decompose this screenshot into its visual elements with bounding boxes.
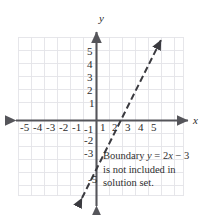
y-tick--5: -5 xyxy=(88,174,97,185)
x-tick-2: 2 xyxy=(112,122,118,133)
annotation-eq-mid: = 2 xyxy=(152,150,168,161)
annotation-line-2: is not included in xyxy=(103,163,203,177)
x-axis-label: x xyxy=(193,115,198,126)
boundary-annotation: Boundary y = 2x − 3 is not included in s… xyxy=(103,149,203,190)
y-tick--2: -2 xyxy=(84,135,93,146)
x-tick-3: 3 xyxy=(125,122,131,133)
x-tick--3: -3 xyxy=(46,122,55,133)
graph-figure: -5 -4 -3 -2 -1 1 2 3 4 5 5 4 3 2 1 -1 -2… xyxy=(0,0,207,215)
x-tick--4: -4 xyxy=(33,122,42,133)
annotation-eq-end: − 3 xyxy=(173,150,189,161)
y-axis-label: y xyxy=(99,13,104,24)
annotation-prefix: Boundary xyxy=(103,150,147,161)
x-tick-5: 5 xyxy=(151,122,157,133)
x-tick--1: -1 xyxy=(72,122,81,133)
y-tick-3: 3 xyxy=(87,72,93,83)
x-tick-1: 1 xyxy=(100,122,106,133)
y-tick--3: -3 xyxy=(84,148,93,159)
y-tick-4: 4 xyxy=(87,59,93,70)
y-tick-5: 5 xyxy=(87,46,93,57)
y-tick-2: 2 xyxy=(87,85,93,96)
y-tick-1: 1 xyxy=(89,98,95,109)
annotation-line-3: solution set. xyxy=(103,176,203,190)
x-tick--5: -5 xyxy=(20,122,29,133)
x-tick-4: 4 xyxy=(138,122,144,133)
x-tick--2: -2 xyxy=(59,122,68,133)
annotation-line-1: Boundary y = 2x − 3 xyxy=(103,149,203,163)
